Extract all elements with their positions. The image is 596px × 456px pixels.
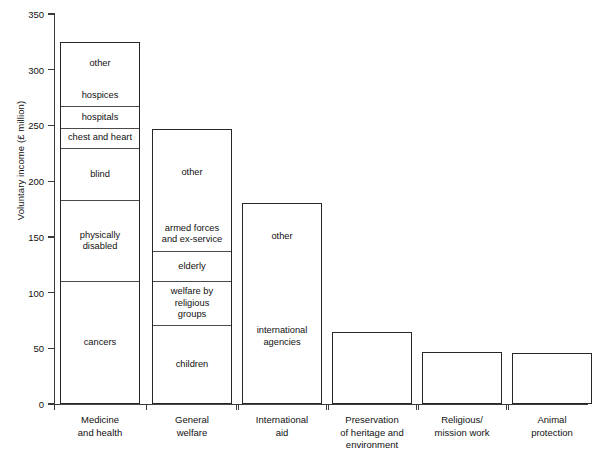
bar-segment: welfare by religious groups (153, 282, 231, 325)
bar-segment (513, 354, 591, 405)
bar-segment: hospitals (61, 107, 139, 128)
bar-segment-label: children (175, 359, 210, 371)
x-tick-10 (506, 404, 507, 410)
y-tick-label-200: 200 (0, 176, 44, 187)
y-tick-label-250: 250 (0, 120, 44, 131)
bar-segment: hospices (61, 84, 139, 107)
x-tick-8 (416, 404, 417, 410)
bar-6 (512, 353, 592, 404)
bar-segment: armed forces and ex-service (153, 217, 231, 253)
y-tick-label-300: 300 (0, 64, 44, 75)
x-tick-9 (508, 404, 509, 410)
x-tick-3 (238, 404, 239, 410)
y-tick-50 (48, 348, 54, 349)
y-tick-300 (48, 69, 54, 70)
y-tick-100 (48, 292, 54, 293)
bar-segment-label: other (88, 58, 111, 70)
bar-segment-label: hospitals (81, 112, 120, 124)
y-tick-label-350: 350 (0, 9, 44, 20)
bar-segment-label: cancers (83, 337, 118, 349)
x-tick-4 (236, 404, 237, 410)
y-tick-150 (48, 236, 54, 237)
bar-segment (423, 353, 501, 405)
bar-segment-label: welfare by religious groups (170, 286, 214, 321)
bar-segment-label: elderly (177, 261, 206, 273)
bar-segment: physically disabled (61, 201, 139, 282)
x-axis-label-6: Animal protection (498, 414, 596, 439)
x-tick-12 (54, 404, 55, 410)
bar-segment: chest and heart (61, 129, 139, 149)
bar-segment-label: hospices (81, 90, 120, 102)
bar-segment: cancers (61, 282, 139, 405)
x-tick-5 (328, 404, 329, 410)
bar-segment: elderly (153, 252, 231, 282)
x-tick-6 (326, 404, 327, 410)
bar-segment: blind (61, 149, 139, 201)
bar-segment-label: blind (89, 169, 111, 181)
y-tick-label-150: 150 (0, 231, 44, 242)
y-tick-200 (48, 181, 54, 182)
bar-2: childrenwelfare by religious groupselder… (152, 129, 232, 404)
bar-segment: other (243, 204, 321, 269)
bar-segment-label: armed forces and ex-service (161, 223, 223, 246)
y-tick-label-100: 100 (0, 287, 44, 298)
y-tick-label-0: 0 (0, 399, 44, 410)
bar-4 (332, 332, 412, 404)
bar-segment: children (153, 326, 231, 405)
x-tick-7 (418, 404, 419, 410)
y-tick-350 (48, 13, 54, 14)
bar-segment-label: international agencies (256, 325, 309, 348)
x-tick-2 (146, 404, 147, 410)
y-axis-line (54, 13, 55, 405)
bar-segment-label: chest and heart (67, 132, 133, 144)
y-tick-label-50: 50 (0, 343, 44, 354)
y-tick-250 (48, 125, 54, 126)
bar-segment-label: other (270, 231, 293, 243)
bar-segment: international agencies (243, 269, 321, 405)
bar-5 (422, 352, 502, 404)
bar-segment-label: other (180, 167, 203, 179)
bar-1: cancersphysically disabledblindchest and… (60, 42, 140, 404)
bar-segment (333, 333, 411, 405)
bar-segment: other (153, 130, 231, 217)
bar-3: international agenciesother (242, 203, 322, 404)
bar-segment-label: physically disabled (79, 230, 121, 253)
bar-segment: other (61, 43, 139, 84)
